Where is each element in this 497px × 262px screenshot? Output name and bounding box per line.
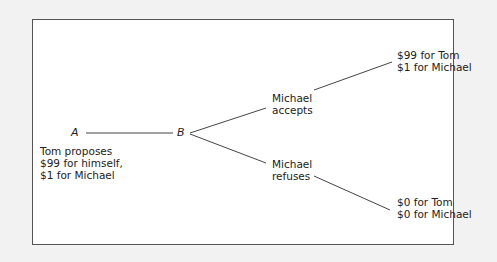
edge-refuse-outcome <box>314 176 390 210</box>
node-b: B <box>177 126 185 139</box>
edge-b-refuse <box>190 134 266 163</box>
edge-accept-outcome <box>314 62 392 90</box>
outcome-refuse: $0 for Tom $0 for Michael <box>397 196 472 220</box>
node-a-description: Tom proposes $99 for himself, $1 for Mic… <box>40 145 123 181</box>
branch-refuse-label: Michael refuses <box>272 158 312 182</box>
node-a: A <box>71 126 79 139</box>
outcome-accept: $99 for Tom $1 for Michael <box>397 49 472 73</box>
branch-accept-label: Michael accepts <box>272 92 313 116</box>
edge-b-accept <box>190 108 266 133</box>
